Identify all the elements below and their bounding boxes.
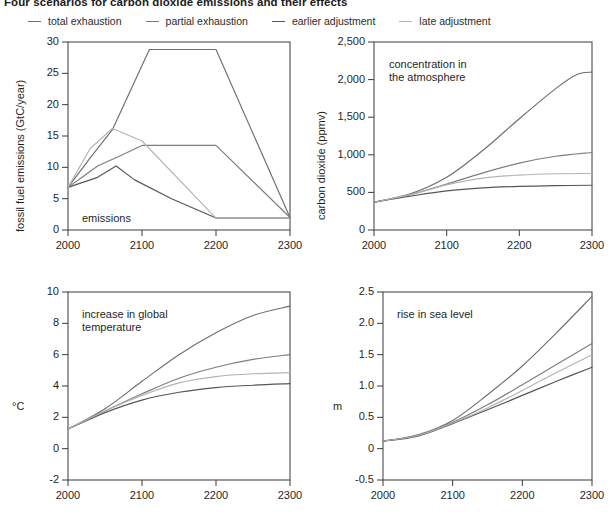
chart-panel-emissions: 0510152025302000210022002300fossil fuel … [0,30,305,280]
legend-item-late-adjustment: late adjustment [399,15,490,27]
panel-title-emissions: emissions [82,212,131,225]
y-tick-label: 1,000 [337,148,365,160]
y-axis-title: carbon dioxide (ppmv) [315,111,327,220]
series-line-total-exhaustion [68,50,290,218]
legend-item-earlier-adjustment: earlier adjustment [272,15,375,27]
chart-panel-sealevel: -0.500.51.01.52.02.52000210022002300mris… [305,280,615,524]
y-tick-label: 0 [53,223,59,235]
x-tick-label: 2000 [359,489,407,501]
y-tick-label: 2,000 [337,73,365,85]
legend-swatch-icon [272,21,285,22]
y-tick-label: 25 [47,66,59,78]
x-tick-label: 2100 [118,239,166,251]
x-tick-label: 2300 [568,239,615,251]
legend-label: earlier adjustment [292,15,375,27]
y-tick-label: 0 [368,442,374,454]
x-tick-label: 2200 [495,239,543,251]
legend-item-partial-exhaustion: partial exhaustion [146,15,248,27]
y-tick-label: 0 [359,223,365,235]
series-line-late-adjustment [383,355,592,441]
chart-panel-temperature: -202468102000210022002300°Cincrease in g… [0,280,305,524]
y-tick-label: 5 [53,192,59,204]
x-tick-label: 2000 [350,239,398,251]
panel-title-sealevel: rise in sea level [397,308,473,321]
y-tick-label: -2 [49,473,59,485]
y-tick-label: 4 [53,379,59,391]
x-tick-label: 2200 [192,489,240,501]
y-tick-label: 10 [47,160,59,172]
y-tick-label: 0 [53,442,59,454]
y-tick-label: -0.5 [355,473,374,485]
series-line-late-adjustment [68,373,290,429]
y-tick-label: 2.5 [359,285,374,297]
x-tick-label: 2300 [568,489,615,501]
y-tick-label: 0.5 [359,410,374,422]
series-line-earlier-adjustment [68,384,290,429]
legend: total exhaustion partial exhaustion earl… [0,13,615,29]
y-tick-label: 30 [47,35,59,47]
y-axis-title: fossil fuel emissions (GtC/year) [14,80,26,232]
y-axis-title: m [333,400,342,412]
x-tick-label: 2100 [118,489,166,501]
y-tick-label: 500 [347,185,365,197]
y-tick-label: 8 [53,316,59,328]
series-line-partial-exhaustion [383,343,592,441]
series-line-earlier-adjustment [374,185,592,202]
legend-swatch-icon [399,21,412,22]
series-line-partial-exhaustion [68,145,290,217]
x-tick-label: 2200 [192,239,240,251]
series-line-earlier-adjustment [68,166,290,218]
y-tick-label: 2 [53,410,59,422]
legend-label: late adjustment [419,15,490,27]
y-tick-label: 1.5 [359,348,374,360]
legend-label: partial exhaustion [166,15,248,27]
legend-label: total exhaustion [48,15,122,27]
figure-root: Four scenarios for carbon dioxide emissi… [0,0,615,524]
y-tick-label: 20 [47,98,59,110]
panel-title-temperature: increase in global temperature [82,308,168,333]
x-tick-label: 2100 [423,239,471,251]
y-tick-label: 1.0 [359,379,374,391]
x-tick-label: 2000 [44,489,92,501]
y-tick-label: 6 [53,348,59,360]
x-tick-label: 2100 [429,489,477,501]
chart-panel-concentration: 05001,0001,5002,0002,5002000210022002300… [305,30,615,280]
y-tick-label: 2,500 [337,35,365,47]
panel-title-concentration: concentration in the atmosphere [389,58,467,83]
y-tick-label: 10 [47,285,59,297]
x-tick-label: 2200 [498,489,546,501]
x-tick-label: 2000 [44,239,92,251]
y-tick-label: 1,500 [337,110,365,122]
y-axis-title: °C [12,400,24,412]
legend-swatch-icon [28,21,41,22]
y-tick-label: 15 [47,129,59,141]
series-line-total-exhaustion [374,72,592,202]
legend-swatch-icon [146,21,159,22]
legend-item-total-exhaustion: total exhaustion [28,15,122,27]
figure-title: Four scenarios for carbon dioxide emissi… [4,0,604,7]
y-tick-label: 2.0 [359,316,374,328]
